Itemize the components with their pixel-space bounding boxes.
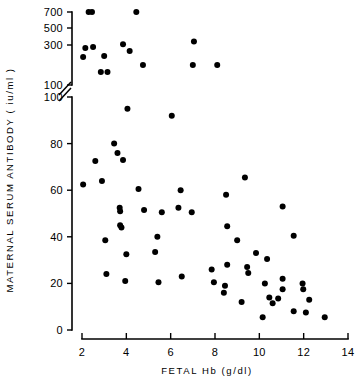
scatter-point — [234, 237, 240, 243]
scatter-point — [306, 297, 312, 303]
scatter-point — [178, 187, 184, 193]
scatter-point — [280, 286, 286, 292]
scatter-point — [99, 178, 105, 184]
scatter-point — [189, 209, 195, 215]
scatter-point — [123, 251, 129, 257]
y-ticklabel-lower: 0 — [57, 324, 63, 336]
scatter-point — [191, 39, 197, 45]
scatter-point — [190, 62, 196, 68]
scatter-point — [214, 62, 220, 68]
x-ticklabel: 14 — [342, 346, 355, 358]
scatter-point — [224, 223, 230, 229]
scatter-point — [266, 294, 272, 300]
scatter-point — [179, 273, 185, 279]
scatter-plot-figure: 020406080100 100300500700 2468101214 FET… — [0, 0, 363, 381]
scatter-point — [111, 141, 117, 147]
y-axis-title: MATERNAL SERUM ANTIBODY ( iu/ml ) — [4, 67, 15, 292]
scatter-point — [120, 157, 126, 163]
scatter-point — [244, 264, 250, 270]
x-axis — [82, 333, 348, 339]
scatter-point — [260, 314, 266, 320]
scatter-point — [120, 41, 126, 47]
scatter-point — [300, 286, 306, 292]
scatter-point — [114, 150, 120, 156]
scatter-point — [253, 250, 259, 256]
scatter-point — [155, 279, 161, 285]
y-ticklabel-upper: 300 — [44, 39, 63, 51]
scatter-point — [211, 279, 217, 285]
scatter-point — [90, 44, 96, 50]
scatter-point — [169, 113, 175, 119]
scatter-point — [118, 224, 124, 230]
scatter-point — [117, 208, 123, 214]
scatter-point — [221, 290, 227, 296]
y-axis-upper-ticklabels: 100300500700 — [44, 6, 63, 91]
scatter-point — [223, 192, 229, 198]
scatter-point — [154, 234, 160, 240]
y-axis-lower — [67, 97, 72, 330]
scatter-point — [141, 207, 147, 213]
scatter-point — [280, 276, 286, 282]
scatter-point — [92, 158, 98, 164]
scatter-point — [133, 9, 139, 15]
y-axis-lower-ticklabels: 020406080100 — [44, 91, 63, 336]
scatter-point — [89, 9, 95, 15]
y-ticklabel-lower: 60 — [50, 184, 63, 196]
scatter-point — [98, 69, 104, 75]
scatter-point — [291, 308, 297, 314]
scatter-point — [275, 296, 281, 302]
scatter-point — [80, 54, 86, 60]
scatter-point — [239, 299, 245, 305]
x-ticklabel: 8 — [212, 346, 218, 358]
scatter-point — [209, 266, 215, 272]
scatter-point — [102, 237, 108, 243]
y-ticklabel-upper: 500 — [44, 22, 63, 34]
scatter-point — [152, 249, 158, 255]
scatter-point — [104, 69, 110, 75]
x-ticklabel: 2 — [79, 346, 85, 358]
y-ticklabel-upper: 100 — [44, 79, 63, 91]
scatter-point — [303, 310, 309, 316]
scatter-point — [270, 300, 276, 306]
x-ticklabel: 12 — [297, 346, 310, 358]
y-ticklabel-lower: 20 — [50, 277, 63, 289]
y-ticklabel-lower: 40 — [50, 231, 63, 243]
scatter-point — [322, 314, 328, 320]
scatter-point — [140, 62, 146, 68]
x-axis-title: FETAL Hb (g/dl) — [161, 365, 253, 376]
x-ticklabel: 6 — [167, 346, 173, 358]
scatter-point — [224, 262, 230, 268]
scatter-point — [159, 209, 165, 215]
y-ticklabel-lower: 80 — [50, 138, 63, 150]
y-axis-upper — [67, 12, 72, 85]
x-ticklabel: 4 — [123, 346, 129, 358]
scatter-point — [262, 280, 268, 286]
x-axis-ticklabels: 2468101214 — [79, 346, 355, 358]
scatter-point — [80, 181, 86, 187]
scatter-point — [175, 205, 181, 211]
plot-canvas: 020406080100 100300500700 2468101214 FET… — [0, 0, 363, 381]
scatter-point — [136, 186, 142, 192]
scatter-point — [127, 48, 133, 54]
scatter-point — [101, 53, 107, 59]
scatter-points-layer — [80, 9, 328, 320]
scatter-point — [291, 233, 297, 239]
scatter-point — [264, 256, 270, 262]
scatter-point — [103, 271, 109, 277]
scatter-point — [124, 106, 130, 112]
y-ticklabel-upper: 700 — [44, 6, 63, 18]
scatter-point — [222, 283, 228, 289]
scatter-point — [245, 270, 251, 276]
scatter-point — [242, 174, 248, 180]
scatter-point — [122, 278, 128, 284]
scatter-point — [300, 280, 306, 286]
scatter-point — [82, 45, 88, 51]
scatter-point — [280, 204, 286, 210]
x-ticklabel: 10 — [253, 346, 266, 358]
